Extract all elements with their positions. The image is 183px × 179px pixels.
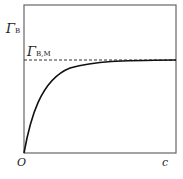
asymptote-label: ΓB,M	[27, 45, 51, 58]
x-axis-label: c	[162, 157, 168, 168]
y-axis-label: ΓB	[6, 22, 20, 35]
isotherm-curve	[24, 60, 176, 153]
origin-label: O	[17, 157, 26, 168]
plot-frame	[24, 5, 176, 153]
chart-plot	[0, 0, 183, 179]
